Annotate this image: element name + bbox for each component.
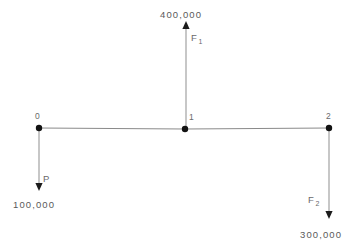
- force-p-group: P 100,000: [13, 128, 55, 210]
- beam-force-diagram: 400,000 F1 P 100,000 F2 300,000 0 1 2: [0, 0, 358, 246]
- force-f2-arrowhead-down: [325, 211, 332, 219]
- force-f2-group: F2 300,000: [300, 128, 342, 240]
- node-markers: 0 1 2: [35, 111, 332, 132]
- node-0-marker: [36, 125, 42, 131]
- beam-segment-1-2: [185, 128, 329, 129]
- force-p-label: P: [43, 173, 50, 184]
- beam-segment-0-1: [39, 128, 185, 129]
- node-0-label: 0: [35, 111, 40, 121]
- diagram-canvas: 400,000 F1 P 100,000 F2 300,000 0 1 2: [0, 0, 358, 246]
- force-f1-label-base: F: [191, 32, 197, 43]
- force-f1-magnitude: 400,000: [160, 9, 202, 20]
- force-f2-label-subscript: 2: [316, 200, 320, 207]
- force-f1-group: 400,000 F1: [160, 9, 203, 129]
- force-p-magnitude: 100,000: [13, 199, 55, 210]
- force-f1-label-subscript: 1: [199, 38, 203, 45]
- force-f2-label: F2: [308, 194, 320, 207]
- force-f1-arrowhead-up: [182, 21, 189, 29]
- force-p-arrowhead-down: [35, 183, 42, 191]
- force-f1-label: F1: [191, 32, 203, 45]
- node-1-label: 1: [189, 112, 194, 122]
- node-1-marker: [182, 126, 188, 132]
- force-f2-label-base: F: [308, 194, 314, 205]
- node-2-marker: [326, 125, 332, 131]
- force-f2-magnitude: 300,000: [300, 229, 342, 240]
- node-2-label: 2: [326, 111, 331, 121]
